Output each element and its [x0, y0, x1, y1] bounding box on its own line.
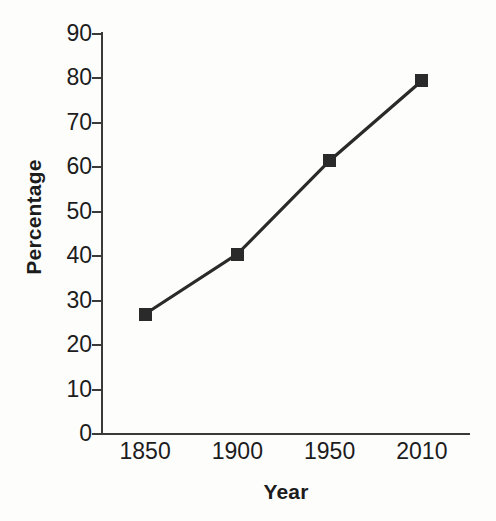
y-tick-label: 40 [48, 244, 92, 267]
y-tick-label: 60 [48, 155, 92, 178]
y-tick-mark [92, 211, 101, 213]
y-tick-mark [92, 300, 101, 302]
y-tick-label: 50 [48, 200, 92, 223]
y-axis-line [101, 32, 103, 435]
y-tick-label: 10 [48, 378, 92, 401]
data-point-marker [231, 248, 244, 261]
y-tick-label: 90 [48, 22, 92, 45]
y-tick-mark [92, 166, 101, 168]
x-tick-label: 1850 [100, 440, 190, 463]
y-tick-mark [92, 77, 101, 79]
y-tick-mark [92, 344, 101, 346]
x-tick-label: 1900 [192, 440, 282, 463]
y-axis-ticks: 9080706050403020100 [0, 0, 92, 521]
y-tick-label: 30 [48, 289, 92, 312]
x-tick-label: 2010 [377, 440, 467, 463]
x-tick-label: 1950 [285, 440, 375, 463]
y-tick-label: 0 [48, 422, 92, 445]
y-tick-label: 80 [48, 66, 92, 89]
x-axis-title: Year [101, 480, 471, 504]
y-tick-mark [92, 255, 101, 257]
data-point-marker [415, 74, 428, 87]
y-tick-label: 20 [48, 333, 92, 356]
y-tick-mark [92, 122, 101, 124]
y-tick-label: 70 [48, 111, 92, 134]
y-tick-mark [92, 33, 101, 35]
data-point-marker [139, 308, 152, 321]
line-chart-figure: Percentage 9080706050403020100 185019001… [0, 0, 496, 521]
y-tick-mark [92, 389, 101, 391]
data-point-marker [323, 154, 336, 167]
y-tick-mark [92, 433, 101, 435]
x-axis-line [101, 433, 470, 435]
